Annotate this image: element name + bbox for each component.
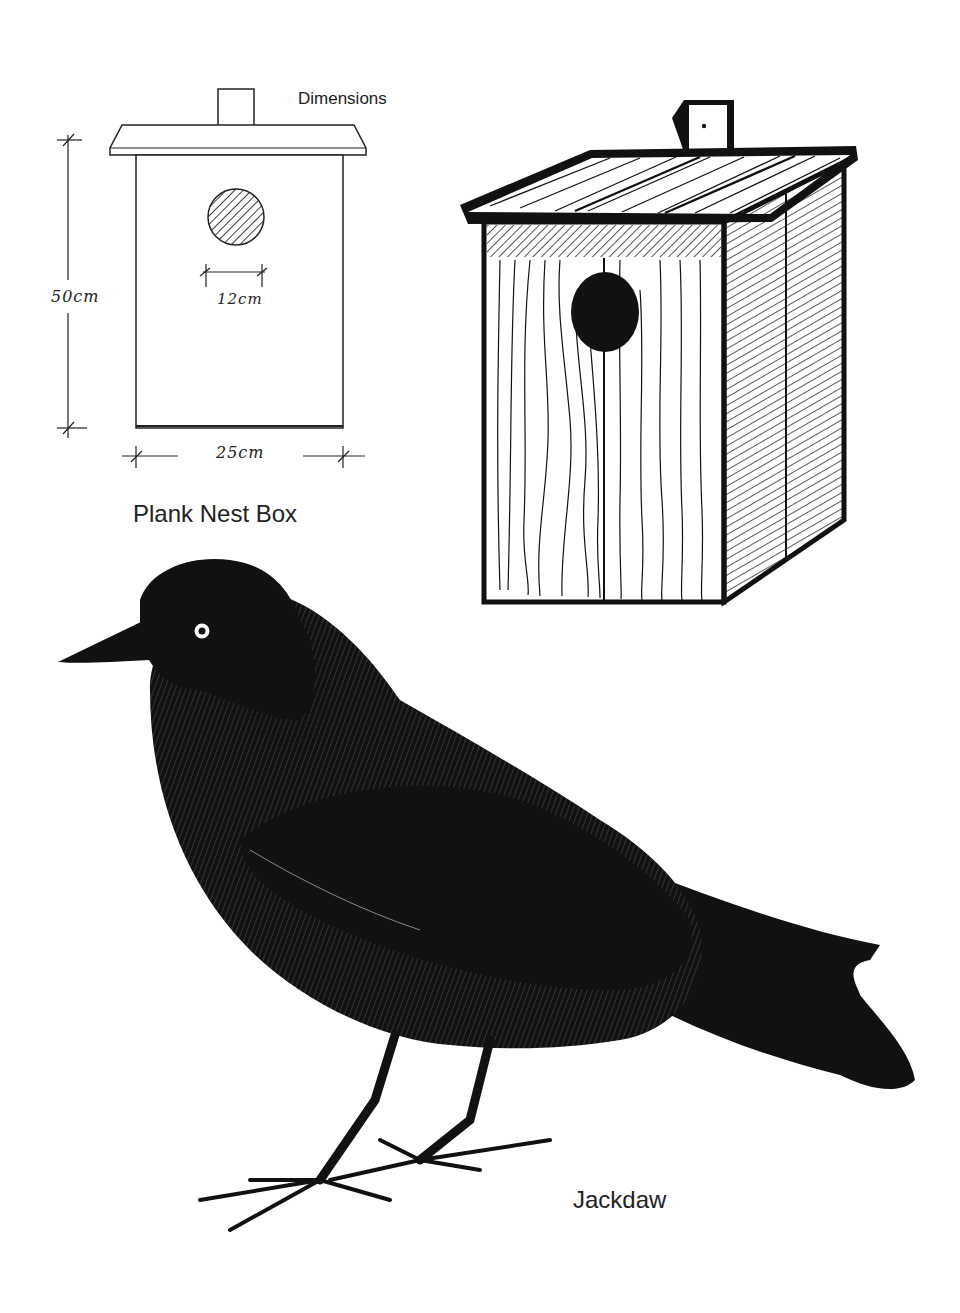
- jackdaw-caption: Jackdaw: [573, 1186, 666, 1214]
- height-dimension-label: 50cm: [51, 287, 100, 306]
- nest-box-illustration: [460, 100, 858, 602]
- hole-dimension-label: 12cm: [217, 290, 263, 308]
- illustration-canvas: [0, 0, 960, 1313]
- width-dimension-label: 25cm: [216, 443, 265, 462]
- plan-diagram: [57, 89, 366, 468]
- jackdaw-illustration: [58, 559, 915, 1230]
- nest-box-entrance-hole: [571, 272, 639, 352]
- plan-roof: [110, 125, 366, 155]
- dimensions-heading: Dimensions: [298, 89, 387, 109]
- plan-entrance-hole: [208, 189, 264, 245]
- plan-chimney: [218, 89, 254, 126]
- height-dimension-line: [57, 134, 87, 438]
- plank-nest-box-caption: Plank Nest Box: [133, 500, 297, 528]
